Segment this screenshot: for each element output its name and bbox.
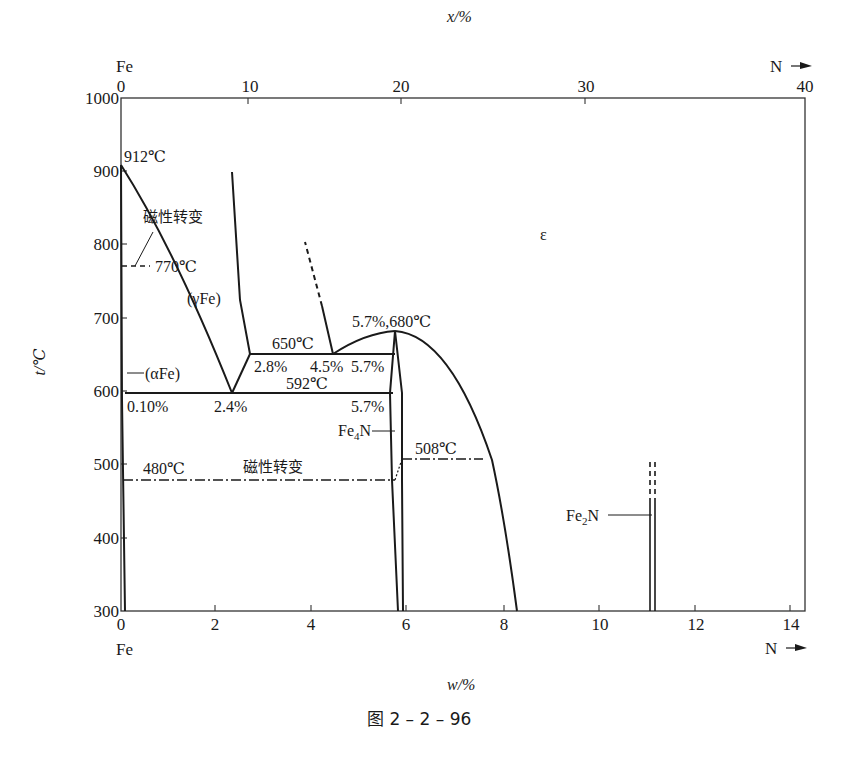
magnetic-transition-upper-label: 磁性转变: [143, 208, 203, 226]
eps-gamma-boundary: [322, 306, 333, 354]
t650-label: 650℃: [272, 335, 314, 352]
top-tick-label: 20: [393, 77, 410, 96]
t912-label: 912℃: [124, 148, 166, 165]
peak-label: 5.7%,680℃: [352, 313, 431, 330]
bottom-axis-title: w/%: [447, 676, 475, 693]
t508-label: 508℃: [415, 440, 457, 457]
p010-label: 0.10%: [127, 398, 168, 415]
alpha-fe-label: (αFe): [145, 365, 180, 383]
arrow-right-icon: [786, 644, 807, 651]
t592-label: 592℃: [286, 375, 328, 392]
bottom-tick-label: 10: [592, 615, 609, 634]
gamma-alpha-boundary: [121, 165, 232, 393]
magnetic-transition-lower-label: 磁性转变: [243, 458, 303, 476]
y-tick-label: 300: [94, 602, 120, 621]
plot-frame: [121, 98, 805, 611]
bottom-tick-label: 8: [500, 615, 509, 634]
figure-caption: 图 2 – 2 – 96: [367, 709, 471, 729]
y-tick-label: 500: [94, 455, 120, 474]
top-axis-ticks: [248, 98, 585, 104]
fe2n-label: Fe2N: [566, 507, 600, 527]
bottom-tick-label: 14: [783, 615, 801, 634]
p57a-label: 5.7%: [351, 358, 384, 375]
y-tick-label: 600: [94, 382, 120, 401]
arrow-right-icon: [791, 62, 812, 69]
y-tick-label: 1000: [85, 89, 119, 108]
leader-lines: [127, 232, 652, 515]
top-axis-title: x/%: [446, 8, 472, 25]
fe-top-label: Fe: [116, 57, 133, 76]
magnetic-connector: [395, 459, 402, 480]
y-tick-label: 800: [94, 235, 120, 254]
bottom-axis-ticks: [215, 605, 790, 611]
gamma-eutectoid-edge: [232, 354, 250, 393]
phase-diagram: x/% w/% t/℃ Fe Fe N N 0 10 20 30 40 0 2 …: [0, 0, 854, 758]
bottom-tick-label: 6: [402, 615, 411, 634]
y-tick-label: 900: [94, 162, 120, 181]
p45-label: 4.5%: [310, 358, 343, 375]
p57b-label: 5.7%: [351, 398, 384, 415]
y-tick-label: 700: [94, 309, 120, 328]
top-tick-label: 40: [797, 77, 814, 96]
n-bottom-label: N: [765, 639, 777, 658]
p24-label: 2.4%: [214, 398, 247, 415]
p28-label: 2.8%: [254, 358, 287, 375]
eps-dome-left: [333, 331, 395, 354]
t770-label: 770℃: [155, 258, 197, 275]
magnetic-upper-leader: [135, 232, 153, 266]
t480-label: 480℃: [143, 460, 185, 477]
fe4n-left-boundary: [390, 331, 398, 611]
gamma-solvus-right: [232, 172, 250, 354]
phase-boundaries: [121, 165, 655, 611]
fe-bottom-label: Fe: [116, 640, 133, 659]
y-axis-title: t/℃: [31, 349, 48, 376]
y-tick-label: 400: [94, 529, 120, 548]
fe4n-label: Fe4N: [338, 422, 372, 442]
bottom-tick-label: 4: [307, 615, 316, 634]
bottom-tick-label: 12: [688, 615, 705, 634]
n-top-label: N: [770, 57, 782, 76]
eps-gamma-dashed: [305, 242, 322, 306]
epsilon-label: ε: [540, 226, 547, 243]
eps-dome-right: [395, 331, 517, 611]
dashed-boundaries: [122, 242, 655, 500]
bottom-tick-label: 2: [211, 615, 220, 634]
top-tick-label: 10: [242, 77, 259, 96]
gamma-fe-label: (γFe): [187, 290, 221, 308]
top-tick-label: 30: [578, 77, 595, 96]
